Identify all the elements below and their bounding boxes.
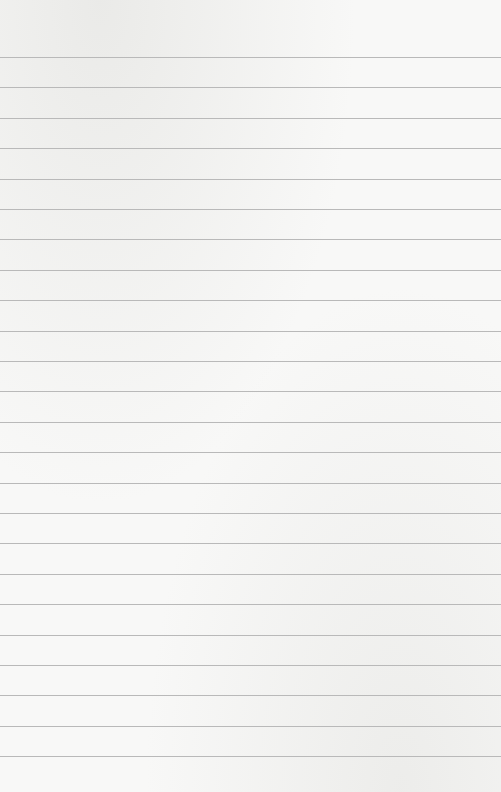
ruled-line	[0, 452, 501, 453]
ruled-line	[0, 209, 501, 210]
ruled-line	[0, 239, 501, 240]
ruled-line	[0, 574, 501, 575]
ruled-line	[0, 87, 501, 88]
ruled-line	[0, 543, 501, 544]
ruled-line	[0, 179, 501, 180]
ruled-line	[0, 665, 501, 666]
ruled-line	[0, 331, 501, 332]
ruled-line	[0, 391, 501, 392]
ruled-line	[0, 604, 501, 605]
ruled-line	[0, 756, 501, 757]
ruled-line	[0, 118, 501, 119]
lined-paper	[0, 0, 501, 792]
ruled-line	[0, 513, 501, 514]
ruled-line	[0, 148, 501, 149]
ruled-line	[0, 695, 501, 696]
ruled-line	[0, 57, 501, 58]
ruled-line	[0, 635, 501, 636]
ruled-line	[0, 726, 501, 727]
ruled-line	[0, 422, 501, 423]
ruled-line	[0, 270, 501, 271]
ruled-line	[0, 483, 501, 484]
ruled-line	[0, 300, 501, 301]
ruled-line	[0, 361, 501, 362]
